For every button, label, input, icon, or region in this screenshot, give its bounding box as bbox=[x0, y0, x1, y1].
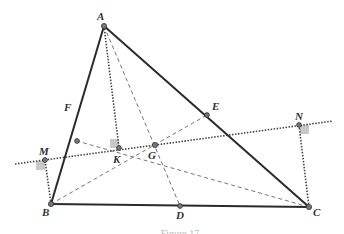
label-e: E bbox=[212, 101, 219, 112]
point-m bbox=[43, 158, 48, 163]
median-cf bbox=[77, 141, 309, 207]
label-b: B bbox=[42, 207, 49, 218]
point-c bbox=[306, 204, 311, 209]
perpendicular-ak bbox=[104, 26, 119, 148]
point-n bbox=[297, 123, 302, 128]
label-k: K bbox=[113, 154, 120, 165]
label-g: G bbox=[148, 150, 156, 161]
label-d: D bbox=[176, 210, 184, 221]
dotted-lines bbox=[15, 26, 333, 207]
point-f bbox=[75, 139, 80, 144]
medians bbox=[51, 26, 309, 207]
point-a bbox=[101, 23, 106, 28]
perpendicular-bm bbox=[45, 160, 51, 204]
point-g bbox=[152, 142, 157, 147]
point-e bbox=[205, 113, 210, 118]
perpendicular-cn bbox=[299, 125, 309, 207]
label-m: M bbox=[39, 146, 49, 157]
figure-caption: Figure 17 bbox=[150, 227, 210, 234]
point-d bbox=[178, 204, 183, 209]
points bbox=[43, 23, 312, 209]
label-n: N bbox=[295, 111, 303, 122]
side-ab bbox=[51, 26, 104, 204]
label-f: F bbox=[64, 102, 71, 113]
line-mn bbox=[15, 121, 333, 164]
label-c: C bbox=[313, 207, 320, 218]
label-a: A bbox=[97, 11, 104, 22]
geometry-diagram bbox=[0, 0, 344, 234]
triangle-abc bbox=[51, 26, 309, 207]
point-k bbox=[117, 146, 122, 151]
point-b bbox=[48, 201, 53, 206]
